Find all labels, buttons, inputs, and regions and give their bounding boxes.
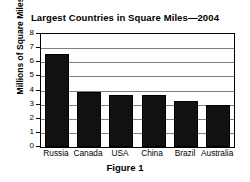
bar — [109, 95, 133, 147]
bar — [174, 101, 198, 147]
y-axis-tick-label: 8 — [22, 29, 34, 37]
plot-inner — [41, 34, 234, 147]
y-axis-tick-label: 1 — [22, 128, 34, 136]
x-axis-label: Canada — [72, 148, 104, 158]
y-axis-tick-label: 2 — [22, 114, 34, 122]
figure-container: Largest Countries in Square Miles—2004 M… — [0, 0, 250, 182]
y-axis-tick-label: 7 — [22, 43, 34, 51]
y-axis-tick-label: 4 — [22, 86, 34, 94]
bar — [45, 54, 69, 147]
bar — [142, 95, 166, 147]
bar — [77, 92, 101, 147]
gridline — [41, 91, 234, 92]
x-axis-label: Australia — [201, 148, 233, 158]
x-axis-label: Russia — [40, 148, 72, 158]
x-axis-label: China — [136, 148, 168, 158]
y-axis-tick-label: 3 — [22, 100, 34, 108]
y-axis-tick-label: 5 — [22, 71, 34, 79]
chart-title: Largest Countries in Square Miles—2004 — [0, 12, 250, 23]
y-axis-tick-label: 6 — [22, 57, 34, 65]
x-axis-label: Brazil — [169, 148, 201, 158]
y-axis-tick-label: 0 — [22, 142, 34, 150]
gridline — [41, 62, 234, 63]
gridline — [41, 76, 234, 77]
gridline — [41, 48, 234, 49]
plot-area — [40, 33, 235, 148]
x-axis-label: USA — [104, 148, 136, 158]
figure-caption: Figure 1 — [0, 162, 250, 173]
bar — [206, 105, 230, 147]
